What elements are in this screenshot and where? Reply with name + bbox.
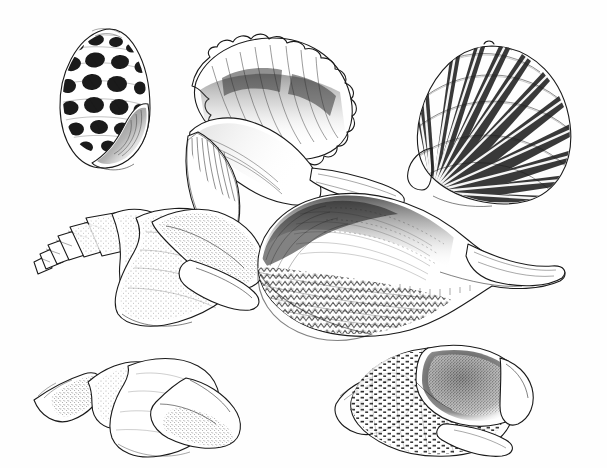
plate-canvas (0, 0, 607, 468)
illustration-plate (0, 0, 607, 468)
